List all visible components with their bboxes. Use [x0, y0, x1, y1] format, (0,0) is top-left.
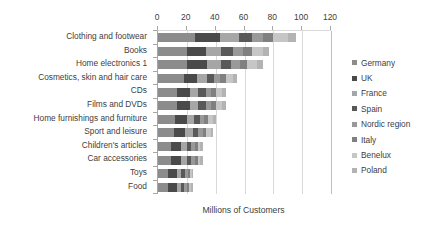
bar-segment[interactable]	[207, 74, 214, 83]
stacked-bar[interactable]	[158, 128, 213, 137]
bar-row	[158, 31, 331, 45]
x-tick-label: 40	[210, 12, 219, 22]
legend-item[interactable]: France	[352, 86, 410, 101]
bar-segment[interactable]	[158, 115, 175, 124]
bar-row	[158, 85, 331, 99]
bar-segment[interactable]	[198, 88, 205, 97]
bar-segment[interactable]	[168, 169, 177, 178]
bar-segment[interactable]	[177, 101, 190, 110]
x-tick-label: 100	[294, 12, 308, 22]
bar-segment[interactable]	[247, 60, 257, 69]
stacked-bar[interactable]	[158, 60, 263, 69]
legend-swatch-icon	[352, 60, 357, 65]
stacked-bar[interactable]	[158, 169, 193, 178]
bar-segment[interactable]	[168, 183, 177, 192]
legend-label: UK	[361, 73, 373, 83]
legend-label: Nordic region	[361, 119, 410, 129]
bar-segment[interactable]	[158, 142, 171, 151]
category-label: Books	[0, 44, 152, 58]
bar-segment[interactable]	[220, 33, 239, 42]
legend-item[interactable]: Nordic region	[352, 117, 410, 132]
stacked-bar[interactable]	[158, 156, 203, 165]
bar-segment[interactable]	[233, 74, 237, 83]
bar-segment[interactable]	[257, 60, 263, 69]
bar-segment[interactable]	[187, 115, 194, 124]
bar-segment[interactable]	[158, 128, 174, 137]
bar-segment[interactable]	[158, 47, 187, 56]
category-label: Sport and leisure	[0, 125, 152, 139]
bar-segment[interactable]	[158, 183, 168, 192]
bar-segment[interactable]	[197, 74, 207, 83]
bar-segment[interactable]	[206, 47, 222, 56]
bar-segment[interactable]	[187, 47, 206, 56]
stacked-bar[interactable]	[158, 33, 296, 42]
bar-segment[interactable]	[221, 60, 231, 69]
category-axis-labels: Clothing and footwearBooksHome electroni…	[0, 30, 152, 193]
bar-segment[interactable]	[233, 47, 243, 56]
category-label: Toys	[0, 166, 152, 180]
bar-segment[interactable]	[174, 128, 186, 137]
legend-item[interactable]: Poland	[352, 163, 410, 178]
stacked-bar[interactable]	[158, 115, 216, 124]
bar-segment[interactable]	[190, 88, 199, 97]
bar-segment[interactable]	[273, 33, 287, 42]
bar-segment[interactable]	[158, 156, 171, 165]
bar-segment[interactable]	[200, 142, 202, 151]
bar-segment[interactable]	[240, 60, 247, 69]
stacked-bar[interactable]	[158, 101, 226, 110]
bar-segment[interactable]	[211, 128, 214, 137]
legend-item[interactable]: UK	[352, 70, 410, 85]
bar-segment[interactable]	[252, 33, 264, 42]
category-label: Car accessories	[0, 152, 152, 166]
bar-segment[interactable]	[221, 47, 233, 56]
stacked-bar[interactable]	[158, 47, 269, 56]
stacked-bar[interactable]	[158, 142, 203, 151]
bar-segment[interactable]	[263, 47, 269, 56]
bar-segment[interactable]	[158, 33, 195, 42]
bar-segment[interactable]	[158, 88, 177, 97]
bar-segment[interactable]	[263, 33, 273, 42]
bar-segment[interactable]	[158, 60, 187, 69]
bar-segment[interactable]	[288, 33, 297, 42]
bar-segment[interactable]	[222, 101, 226, 110]
category-label: Home electronics 1	[0, 57, 152, 71]
bar-segment[interactable]	[177, 88, 190, 97]
bar-segment[interactable]	[195, 33, 220, 42]
bar-segment[interactable]	[239, 33, 252, 42]
bar-segment[interactable]	[184, 74, 197, 83]
bar-segment[interactable]	[226, 74, 233, 83]
stacked-bar[interactable]	[158, 88, 226, 97]
bar-segment[interactable]	[190, 101, 199, 110]
legend-item[interactable]: Spain	[352, 101, 410, 116]
bar-row	[158, 45, 331, 59]
bar-segment[interactable]	[252, 47, 264, 56]
legend-item[interactable]: Italy	[352, 132, 410, 147]
x-tick-label: 120	[323, 12, 337, 22]
bar-segment[interactable]	[158, 74, 184, 83]
bar-segment[interactable]	[171, 156, 181, 165]
bar-segment[interactable]	[158, 101, 177, 110]
bar-segment[interactable]	[191, 183, 192, 192]
stacked-bar[interactable]	[158, 74, 237, 83]
category-label: Films and DVDs	[0, 98, 152, 112]
bar-segment[interactable]	[200, 156, 202, 165]
bar-segment[interactable]	[192, 169, 193, 178]
bar-segment[interactable]	[187, 60, 207, 69]
bar-segment[interactable]	[243, 47, 252, 56]
bar-segment[interactable]	[231, 60, 240, 69]
bar-segment[interactable]	[207, 60, 221, 69]
bar-segment[interactable]	[171, 142, 181, 151]
bar-rows	[158, 31, 331, 194]
legend-item[interactable]: Germany	[352, 55, 410, 70]
x-tick-label: 60	[239, 12, 248, 22]
bar-segment[interactable]	[213, 115, 216, 124]
bar-segment[interactable]	[185, 128, 192, 137]
bar-segment[interactable]	[198, 101, 205, 110]
bar-segment[interactable]	[222, 88, 226, 97]
legend-label: Poland	[361, 165, 387, 175]
bar-segment[interactable]	[158, 169, 168, 178]
x-tick-label: 80	[268, 12, 277, 22]
bar-segment[interactable]	[175, 115, 187, 124]
stacked-bar[interactable]	[158, 183, 193, 192]
legend-item[interactable]: Benelux	[352, 147, 410, 162]
